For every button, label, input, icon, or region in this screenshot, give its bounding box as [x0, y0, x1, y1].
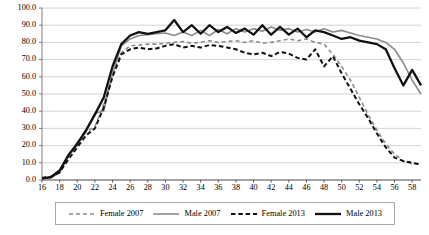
x-tick-label: 22 — [87, 184, 103, 192]
legend-swatch-solid-icon — [152, 210, 180, 218]
x-tick-label: 32 — [175, 184, 191, 192]
x-tick-label: 42 — [263, 184, 279, 192]
x-tick-label: 50 — [334, 184, 350, 192]
series-line-male-2013 — [42, 20, 421, 178]
y-tick-label: 50.0 — [0, 90, 36, 98]
x-tick-label: 26 — [122, 184, 138, 192]
y-tick-label: 60.0 — [0, 73, 36, 81]
y-tick-label: 100.0 — [0, 4, 36, 12]
y-tick-label: 30.0 — [0, 124, 36, 132]
y-tick-label: 70.0 — [0, 55, 36, 63]
series-line-male-2007 — [42, 27, 421, 178]
x-tick-label: 40 — [246, 184, 262, 192]
legend-label: Male 2013 — [346, 209, 382, 218]
x-tick-label: 44 — [281, 184, 297, 192]
chart-canvas — [0, 0, 429, 196]
x-tick-label: 28 — [140, 184, 156, 192]
legend-item-female-2007[interactable]: Female 2007 — [68, 209, 144, 218]
x-tick-label: 38 — [228, 184, 244, 192]
x-tick-label: 48 — [316, 184, 332, 192]
x-tick-label: 30 — [157, 184, 173, 192]
y-tick-label: 90.0 — [0, 21, 36, 29]
x-tick-label: 54 — [369, 184, 385, 192]
y-tick-label: 20.0 — [0, 141, 36, 149]
legend-label: Female 2013 — [262, 209, 306, 218]
legend-item-male-2007[interactable]: Male 2007 — [152, 209, 220, 218]
x-tick-label: 58 — [404, 184, 420, 192]
x-tick-label: 56 — [387, 184, 403, 192]
plot-area — [0, 0, 429, 196]
x-tick-label: 46 — [298, 184, 314, 192]
x-tick-label: 36 — [210, 184, 226, 192]
chart-legend: Female 2007Male 2007Female 2013Male 2013 — [55, 202, 395, 225]
line-chart: 0.010.020.030.040.050.060.070.080.090.01… — [0, 0, 429, 235]
x-tick-label: 18 — [52, 184, 68, 192]
x-tick-label: 16 — [34, 184, 50, 192]
legend-label: Female 2007 — [100, 209, 144, 218]
y-tick-label: 0.0 — [0, 176, 36, 184]
legend-item-male-2013[interactable]: Male 2013 — [314, 209, 382, 218]
legend-swatch-solid-icon — [314, 210, 342, 218]
y-tick-label: 10.0 — [0, 159, 36, 167]
y-tick-label: 80.0 — [0, 38, 36, 46]
legend-swatch-dashed-icon — [230, 210, 258, 218]
x-tick-label: 34 — [193, 184, 209, 192]
x-tick-label: 20 — [69, 184, 85, 192]
y-tick-label: 40.0 — [0, 107, 36, 115]
x-tick-label: 52 — [351, 184, 367, 192]
legend-item-female-2013[interactable]: Female 2013 — [230, 209, 306, 218]
x-tick-label: 24 — [105, 184, 121, 192]
legend-label: Male 2007 — [184, 209, 220, 218]
legend-swatch-dashed-icon — [68, 210, 96, 218]
